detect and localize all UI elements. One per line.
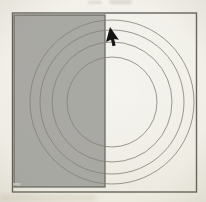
scanned-page — [0, 0, 206, 202]
scan-noise-band — [0, 194, 96, 202]
figure-canvas — [0, 0, 206, 202]
gray-overlay-rectangle — [14, 15, 105, 187]
scan-artifact-mark — [13, 183, 21, 186]
